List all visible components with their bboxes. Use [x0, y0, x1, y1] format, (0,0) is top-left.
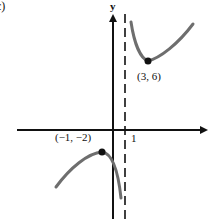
part-label: c)	[0, 0, 5, 12]
local-maximum-point	[99, 149, 106, 156]
local-minimum-label: (3, 6)	[137, 71, 161, 82]
curve-right-branch	[131, 22, 193, 61]
x-tick-label-1: 1	[131, 133, 137, 144]
local-maximum-label: (−1, −2)	[55, 132, 91, 143]
y-axis-label: y	[110, 1, 116, 12]
graph-canvas	[0, 0, 211, 220]
curve-left-branch	[56, 152, 121, 198]
graph-figure: c) y 1 (3, 6) (−1, −2)	[0, 0, 211, 220]
local-minimum-point	[145, 58, 152, 65]
